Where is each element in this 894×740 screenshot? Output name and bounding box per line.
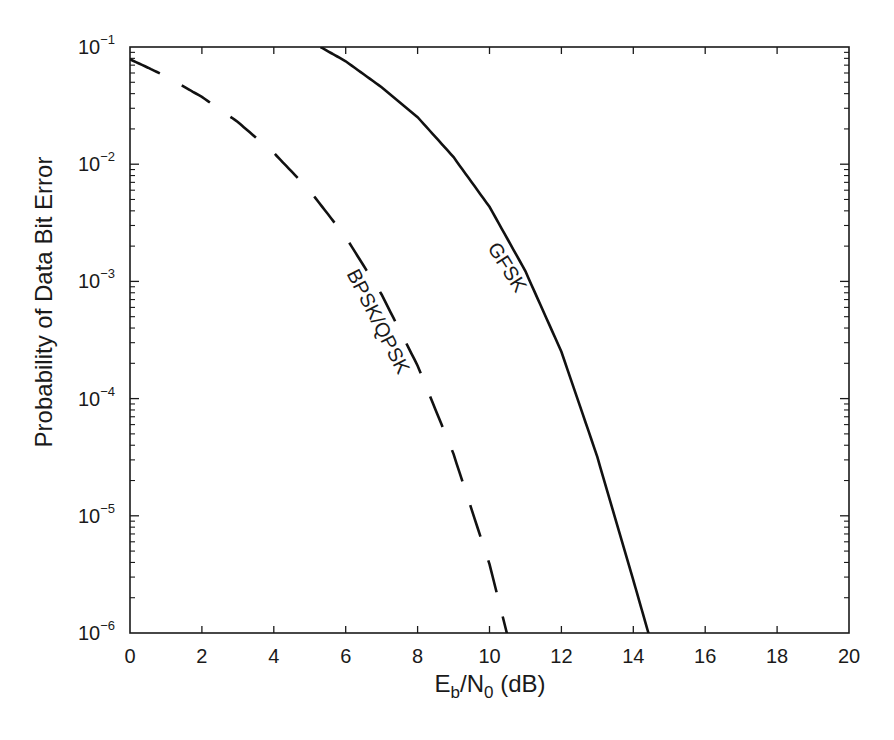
x-tick-label: 8: [412, 645, 423, 667]
minor-ticks: [130, 52, 849, 597]
y-tick-label: 10−6: [78, 618, 115, 644]
bpsk-qpsk-curve-label: BPSK/QPSK: [343, 265, 415, 378]
x-tick-label: 20: [838, 645, 860, 667]
gfsk-curve: [321, 47, 652, 643]
y-tick-label: 10−1: [78, 32, 115, 58]
y-tick-label: 10−3: [78, 266, 115, 292]
x-tick-label: 2: [196, 645, 207, 667]
y-axis-ticks: 10−110−210−310−410−510−6: [78, 32, 849, 644]
x-tick-label: 0: [124, 645, 135, 667]
plot-frame: [130, 47, 849, 633]
x-tick-label: 4: [268, 645, 279, 667]
x-tick-label: 16: [694, 645, 716, 667]
x-axis-label: Eb/N0 (dB): [435, 670, 546, 702]
x-tick-label: 14: [622, 645, 644, 667]
x-tick-label: 18: [766, 645, 788, 667]
ber-chart: 02468101214161820 10−110−210−310−410−510…: [0, 0, 894, 740]
x-label-mid: /N: [460, 670, 484, 697]
x-tick-label: 10: [478, 645, 500, 667]
x-label-main: E: [435, 670, 451, 697]
x-tick-label: 6: [340, 645, 351, 667]
x-label-sub-b: b: [451, 683, 460, 702]
x-label-sub-0: 0: [484, 683, 493, 702]
x-label-tail: (dB): [493, 670, 545, 697]
bpsk-qpsk-curve: [130, 59, 512, 653]
y-tick-label: 10−2: [78, 149, 115, 175]
y-axis-label: Probability of Data Bit Error: [30, 157, 57, 448]
x-tick-label: 12: [550, 645, 572, 667]
y-tick-label: 10−4: [78, 384, 115, 410]
plot-border: [130, 47, 849, 633]
y-tick-label: 10−5: [78, 501, 115, 527]
